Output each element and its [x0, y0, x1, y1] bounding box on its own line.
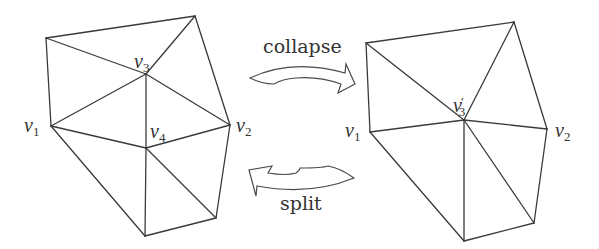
right-edge-tr-v3p	[464, 22, 514, 120]
right-edge-tl-v3p	[366, 43, 464, 120]
label-v3-prime-right: v′3	[453, 94, 465, 119]
right-edge-br-b	[464, 223, 534, 241]
collapse-label: collapse	[263, 35, 342, 57]
label-v1-left: v1	[24, 114, 39, 139]
right-edge-tl-v1	[366, 43, 370, 132]
left-edge-v1-v4	[51, 126, 146, 148]
label-v3-left: v3	[134, 50, 149, 75]
right-edge-tr-v2	[514, 22, 547, 129]
mesh-simplification-diagram: v3 v1 v4 v2 collapse split v′3 v1 v2	[0, 0, 599, 249]
left-edge-v1-b	[51, 126, 145, 236]
right-edge-v3p-br	[464, 120, 534, 223]
split-label: split	[280, 192, 322, 214]
left-edge-tr-v3	[146, 16, 195, 74]
left-edge-tl-v1	[46, 38, 51, 126]
label-v2-right: v2	[555, 119, 570, 144]
left-edge-v4-br	[146, 148, 216, 218]
collapse-arrow	[250, 64, 355, 93]
right-edge-v1-v3p	[370, 120, 464, 132]
left-edge-tl-v3	[46, 38, 146, 74]
left-edge-v4-b	[145, 148, 146, 236]
label-v1-right: v1	[345, 119, 360, 144]
right-edge-v2-br	[534, 129, 547, 223]
left-edge-br-b	[145, 218, 216, 236]
right-mesh	[366, 22, 547, 241]
left-mesh	[46, 16, 230, 236]
left-edge-v3-v2	[146, 74, 230, 125]
right-edge-tl-tr	[366, 22, 514, 43]
right-edge-v3p-v2	[464, 120, 547, 129]
left-edge-tr-v2	[195, 16, 230, 125]
left-edge-v3-v1	[51, 74, 146, 126]
right-edge-v1-b	[370, 132, 464, 241]
label-v4-left: v4	[150, 120, 166, 145]
label-v2-left: v2	[236, 114, 251, 139]
left-edge-v2-br	[216, 125, 230, 218]
left-edge-tl-tr	[46, 16, 195, 38]
curved-arrow-right-icon	[250, 64, 355, 93]
